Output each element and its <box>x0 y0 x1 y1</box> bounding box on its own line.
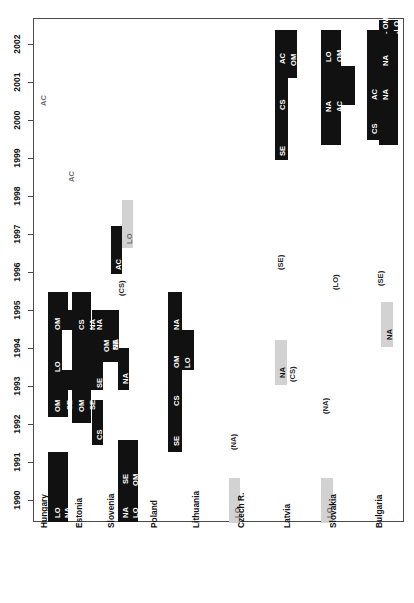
event-label-bulgaria-om02: - OM <box>382 17 390 34</box>
event-label-poland-lo90: LO <box>132 507 140 518</box>
event-label-slovakia-om02: OM <box>336 50 344 62</box>
year-tick-label: 1991 <box>10 446 24 479</box>
year-tick-label: 1999 <box>10 142 24 175</box>
year-tick-mark <box>28 424 33 425</box>
event-label-estonia-cs95: CS <box>78 319 86 330</box>
country-label-text: Latvia <box>281 454 293 528</box>
event-label-bulgaria-lo02: -LO <box>393 21 401 34</box>
bar-lithuania-1992-1995 <box>168 292 182 452</box>
event-label-poland-om91: OM <box>132 474 140 486</box>
event-label-estonia-om93: OM <box>78 400 86 412</box>
year-tick-mark <box>28 196 33 197</box>
year-tick-label: 1997 <box>10 218 24 251</box>
event-label-hungary-om93: OM <box>54 400 62 412</box>
event-label-slovakia-lo96: (LO) <box>332 274 340 290</box>
event-label-poland-cs96: (CS) <box>118 280 126 296</box>
event-label-hungary-cs: CS <box>54 435 62 446</box>
event-label-bulgaria-na00: NA <box>382 89 390 100</box>
bar-slovenia-se-om-na <box>99 310 119 362</box>
event-label-lithuania-se92: SE <box>173 436 181 446</box>
event-label-slovenia-se93: SE <box>96 378 104 388</box>
year-tick-label: 1998 <box>10 180 24 213</box>
event-label-latvia-na94: NA <box>279 367 287 378</box>
country-label-text: Bulgaria <box>373 454 385 528</box>
event-label-hungary-lo94: LO <box>54 361 62 372</box>
event-label-lithuania-ac99: AC <box>221 111 229 122</box>
year-tick-label: 1996 <box>10 256 24 289</box>
event-label-latvia-se99: SE <box>279 146 287 156</box>
year-tick-mark <box>28 500 33 501</box>
event-label-poland-na90: NA <box>122 507 130 518</box>
event-label-lithuania-lo01: LO <box>221 51 229 62</box>
event-label-bulgaria-se96: (SE) <box>377 271 385 286</box>
year-tick-label: 2002 <box>10 28 24 61</box>
event-label-lithuania-om94: OM <box>173 356 181 368</box>
year-tick-mark <box>28 82 33 83</box>
event-label-lithuania-cs93: CS <box>173 395 181 406</box>
event-label-slovakia-na00: NA <box>325 101 333 112</box>
event-label-slovenia-na94: NA <box>112 339 120 350</box>
event-label-poland-se91: SE <box>122 474 130 484</box>
event-label-czech-na92: (NA) <box>230 434 238 450</box>
event-label-slovenia-om94: OM <box>103 340 111 352</box>
event-label-slovenia-cs92: CS <box>96 429 104 440</box>
event-label-slovakia-ac00: AC <box>336 101 344 112</box>
country-label-text: Hungary <box>38 454 50 528</box>
event-label-estonia-ac99: AC <box>68 171 76 182</box>
year-tick-label: 2000 <box>10 104 24 137</box>
event-label-slovenia-na95: NA <box>96 319 104 330</box>
event-label-lithuania-na95: NA <box>173 319 181 330</box>
event-label-lithuania-se99: SE <box>221 146 229 156</box>
event-label-latvia-ac02: AC <box>279 53 287 64</box>
country-label-text: Poland <box>148 454 160 528</box>
event-label-poland-lo98: LO <box>126 233 134 244</box>
year-tick-mark <box>28 462 33 463</box>
event-label-hungary-se93: SE <box>66 400 74 410</box>
event-label-slovakia-na93: (NA) <box>322 398 330 414</box>
country-label-text: Slovenia <box>105 454 117 528</box>
country-label-text: Czech R. <box>235 454 247 528</box>
year-tick-mark <box>28 120 33 121</box>
year-tick-label: 1990 <box>10 484 24 517</box>
year-tick-mark <box>28 44 33 45</box>
year-tick-label: 1994 <box>10 332 24 365</box>
event-label-hungary-na: NA <box>64 507 72 518</box>
year-tick-label: 1992 <box>10 408 24 441</box>
country-label-text: Estonia <box>73 454 85 528</box>
event-label-latvia-cs00: CS <box>279 99 287 110</box>
event-label-bulgaria-ac00: AC <box>371 89 379 100</box>
country-label-text: Lithuania <box>190 454 202 528</box>
event-label-lithuania-om00: OM <box>232 74 240 86</box>
event-label-slovakia-lo02: LO <box>325 51 333 62</box>
bar-bulgaria-na-1995 <box>381 302 393 347</box>
event-label-slovakia-cs02: CS <box>354 51 362 62</box>
year-tick-mark <box>28 310 33 311</box>
event-label-bulgaria-na95: NA <box>386 329 394 340</box>
event-label-hungary-om95: OM <box>54 318 62 330</box>
event-label-poland-na94: NA <box>122 373 130 384</box>
event-label-poland-ac97: AC <box>115 259 123 270</box>
event-label-estonia-na92: NA <box>78 435 86 446</box>
chart-root: 2002200120001999199819971996199519941993… <box>0 0 414 603</box>
event-label-lithuania-na00: NA <box>221 75 229 86</box>
year-tick-label: 1995 <box>10 294 24 327</box>
event-label-hungary-ac01: AC <box>40 95 48 106</box>
country-label-text: Slovakia <box>327 454 339 528</box>
event-label-bulgaria-cs99: CS <box>371 123 379 134</box>
event-label-estonia-se93: SE <box>89 400 97 410</box>
event-label-hungary-lo: LO <box>54 507 62 518</box>
year-tick-mark <box>28 272 33 273</box>
year-tick-mark <box>28 158 33 159</box>
event-label-lithuania-cs02: CS <box>221 19 229 30</box>
bar-latvia-na-1994 <box>275 340 287 385</box>
year-tick-label: 1993 <box>10 370 24 403</box>
year-tick-mark <box>28 386 33 387</box>
year-tick-mark <box>28 234 33 235</box>
event-label-slovakia-se02: SE <box>345 52 353 62</box>
country-label-bulgaria: Bulgaria <box>373 528 414 540</box>
year-tick-label: 2001 <box>10 66 24 99</box>
event-label-latvia-se97: (SE) <box>277 255 285 270</box>
event-label-bulgaria-na01: NA <box>382 55 390 66</box>
bar-bulgaria-om-lo-2002 <box>379 20 398 145</box>
y-axis-line <box>33 18 34 522</box>
